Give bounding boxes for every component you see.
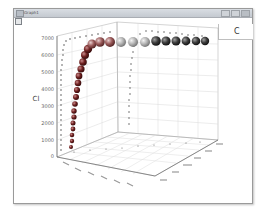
svg-text:2000: 2000 <box>41 120 54 126</box>
svg-text:3000: 3000 <box>41 103 54 109</box>
svg-text:6000: 6000 <box>41 52 54 58</box>
chart-3d-plot: 0 1000 2000 3000 4000 5000 6000 7000 Cl <box>0 0 256 211</box>
y-axis-line <box>155 140 218 176</box>
svg-text:5000: 5000 <box>41 69 54 75</box>
data-spheres <box>69 36 209 149</box>
svg-text:1000: 1000 <box>41 137 54 143</box>
svg-text:0: 0 <box>51 153 54 159</box>
svg-text:7000: 7000 <box>41 35 54 41</box>
svg-text:4000: 4000 <box>41 86 54 92</box>
z-axis-ticks: 0 1000 2000 3000 4000 5000 6000 7000 <box>41 35 54 159</box>
x-axis-ticks <box>63 162 133 186</box>
z-axis-label: Cl <box>33 95 40 103</box>
x-axis-line <box>57 157 155 176</box>
